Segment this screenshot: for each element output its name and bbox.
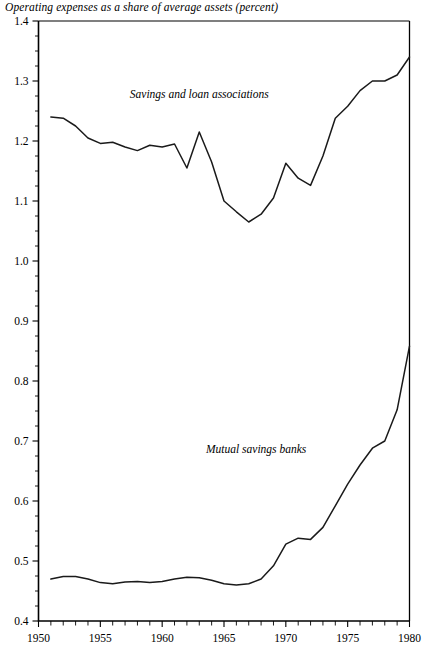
y-tick-label: 1.2 [14, 135, 29, 147]
line-chart-plot: 0.40.50.60.70.80.91.01.11.21.31.4 195019… [0, 0, 422, 651]
chart-series-annotations: Savings and loan associationsMutual savi… [130, 88, 307, 456]
y-tick-label: 0.9 [14, 315, 29, 327]
x-tick-label: 1955 [89, 632, 112, 644]
axis-left-bottom [39, 21, 410, 621]
y-axis-tick-labels: 0.40.50.60.70.80.91.01.11.21.31.4 [14, 15, 29, 627]
chart-ticks [33, 21, 410, 627]
chart-series-lines [51, 57, 410, 585]
x-tick-label: 1960 [151, 632, 174, 644]
x-tick-label: 1970 [274, 632, 297, 644]
x-tick-label: 1965 [213, 632, 236, 644]
y-tick-label: 0.7 [14, 435, 29, 447]
series-line-1 [51, 346, 410, 585]
y-tick-label: 0.8 [14, 375, 29, 387]
x-tick-label: 1975 [336, 632, 359, 644]
series-line-0 [51, 57, 410, 222]
chart-container: Operating expenses as a share of average… [0, 0, 422, 651]
y-tick-label: 0.6 [14, 495, 29, 507]
x-tick-label: 1980 [398, 632, 421, 644]
y-tick-label: 1.1 [14, 195, 29, 207]
y-tick-label: 1.3 [14, 75, 29, 87]
x-tick-label: 1950 [27, 632, 50, 644]
y-tick-label: 0.5 [14, 555, 29, 567]
y-tick-label: 1.4 [14, 15, 29, 27]
x-axis-tick-labels: 1950195519601965197019751980 [27, 632, 421, 644]
y-tick-label: 1.0 [14, 255, 29, 267]
series-annotation-0: Savings and loan associations [130, 88, 269, 101]
chart-axes [39, 21, 410, 621]
series-annotation-1: Mutual savings banks [205, 443, 307, 456]
y-tick-label: 0.4 [14, 615, 29, 627]
